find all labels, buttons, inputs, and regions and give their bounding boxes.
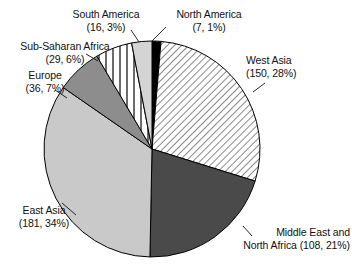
slice-label-west-asia-value: (150, 28%) (246, 67, 350, 80)
slice-label-europe-value: (36, 7%) (12, 82, 78, 95)
slice-label-east-asia-value: (181, 34%) (3, 217, 85, 230)
slice-label-north-america-value: (7, 1%) (155, 21, 263, 34)
slice-label-south-america: South America (16, 3%) (58, 8, 154, 33)
pie-chart: South America (16, 3%) North America (7,… (0, 0, 352, 276)
slice-label-east-asia: East Asia (181, 34%) (3, 204, 85, 229)
slice-label-south-america-value: (16, 3%) (58, 21, 154, 34)
slice-label-sub-saharan-africa-name: Sub-Saharan Africa (4, 40, 126, 53)
slice-label-sub-saharan-africa-value: (29, 6%) (4, 53, 126, 66)
slice-label-east-asia-name: East Asia (3, 204, 85, 217)
slice-label-south-america-name: South America (58, 8, 154, 21)
slice-label-middle-east-north-africa-name: Middle East and (228, 226, 350, 239)
slice-label-europe: Europe (36, 7%) (12, 69, 78, 94)
slice-label-west-asia: West Asia (150, 28%) (246, 54, 350, 79)
slice-label-north-america: North America (7, 1%) (155, 8, 263, 33)
slice-label-middle-east-north-africa-value: North Africa (108, 21%) (228, 239, 350, 252)
slice-label-north-america-name: North America (155, 8, 263, 21)
slice-label-sub-saharan-africa: Sub-Saharan Africa (29, 6%) (4, 40, 126, 65)
slice-label-europe-name: Europe (12, 69, 78, 82)
slice-label-middle-east-north-africa: Middle East and North Africa (108, 21%) (228, 226, 350, 251)
slice-label-west-asia-name: West Asia (246, 54, 350, 67)
